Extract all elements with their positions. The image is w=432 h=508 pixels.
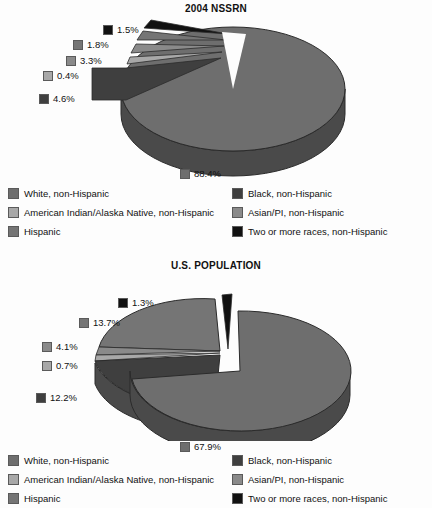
pie-callout: 67.9% bbox=[180, 442, 221, 452]
legend-item-asian-pi-nh[interactable]: Asian/PI, non-Hispanic bbox=[232, 207, 432, 218]
legend-swatch-white-nh bbox=[8, 455, 19, 466]
callout-label: 1.8% bbox=[87, 40, 109, 50]
legend-swatch-hispanic bbox=[8, 226, 19, 237]
legend-item-two-or-more-nh[interactable]: Two or more races, non-Hispanic bbox=[232, 226, 432, 237]
callout-label: 1.5% bbox=[117, 25, 139, 35]
callout-swatch bbox=[180, 442, 190, 452]
legend-item-two-or-more-nh[interactable]: Two or more races, non-Hispanic bbox=[232, 493, 432, 504]
callout-label: 12.2% bbox=[50, 393, 77, 403]
pie-callout: 3.3% bbox=[66, 56, 102, 66]
legend-item-white-nh[interactable]: White, non-Hispanic bbox=[0, 455, 232, 466]
callout-swatch bbox=[79, 318, 89, 328]
callout-swatch bbox=[42, 361, 52, 371]
pie-callout: 0.7% bbox=[42, 361, 78, 371]
callout-swatch bbox=[73, 40, 83, 50]
pie-callout: 12.2% bbox=[36, 393, 77, 403]
legend-swatch-hispanic bbox=[8, 493, 19, 504]
legend-label: Black, non-Hispanic bbox=[248, 189, 332, 199]
legend-row: Hispanic Two or more races, non-Hispanic bbox=[0, 493, 432, 508]
legend-row: Hispanic Two or more races, non-Hispanic bbox=[0, 226, 432, 245]
legend-swatch-black-nh bbox=[232, 455, 243, 466]
legend-swatch-aian-nh bbox=[8, 207, 19, 218]
legend-label: White, non-Hispanic bbox=[24, 189, 109, 199]
pie-callout: 1.8% bbox=[73, 40, 109, 50]
legend-swatch-two-or-more-nh bbox=[232, 226, 243, 237]
callout-swatch bbox=[66, 56, 76, 66]
legend-swatch-asian-pi-nh bbox=[232, 207, 243, 218]
legend-label: Two or more races, non-Hispanic bbox=[248, 227, 387, 237]
callout-label: 1.3% bbox=[132, 298, 154, 308]
legend-label: White, non-Hispanic bbox=[24, 456, 109, 466]
figure-us-population: U.S. POPULATION bbox=[0, 250, 432, 499]
legend-item-aian-nh[interactable]: American Indian/Alaska Native, non-Hispa… bbox=[0, 474, 232, 485]
pie-slice-two-or-more-nh bbox=[222, 294, 232, 349]
legend-label: Two or more races, non-Hispanic bbox=[248, 494, 387, 504]
legend-label: Hispanic bbox=[24, 227, 60, 237]
legend-row: White, non-Hispanic Black, non-Hispanic bbox=[0, 188, 432, 207]
pie-callout: 1.3% bbox=[118, 298, 154, 308]
chart-title-nssrn: 2004 NSSRN bbox=[0, 0, 432, 14]
legend-swatch-black-nh bbox=[232, 188, 243, 199]
callout-label: 4.1% bbox=[56, 342, 78, 352]
legend-label: Asian/PI, non-Hispanic bbox=[248, 208, 344, 218]
callout-swatch bbox=[42, 342, 52, 352]
callout-label: 13.7% bbox=[93, 318, 120, 328]
legend-nssrn: White, non-Hispanic Black, non-Hispanic … bbox=[0, 186, 432, 245]
legend-item-black-nh[interactable]: Black, non-Hispanic bbox=[232, 188, 432, 199]
legend-swatch-white-nh bbox=[8, 188, 19, 199]
chart-title-us-population: U.S. POPULATION bbox=[0, 250, 432, 271]
legend-label: Asian/PI, non-Hispanic bbox=[248, 475, 344, 485]
legend-row: White, non-Hispanic Black, non-Hispanic bbox=[0, 455, 432, 474]
callout-label: 0.7% bbox=[56, 361, 78, 371]
pie-svg-us-population bbox=[0, 271, 432, 441]
legend-swatch-asian-pi-nh bbox=[232, 474, 243, 485]
legend-item-white-nh[interactable]: White, non-Hispanic bbox=[0, 188, 232, 199]
legend-item-aian-nh[interactable]: American Indian/Alaska Native, non-Hispa… bbox=[0, 207, 232, 218]
callout-swatch bbox=[118, 298, 128, 308]
callout-label: 67.9% bbox=[194, 442, 221, 452]
callout-swatch bbox=[36, 393, 46, 403]
callout-swatch bbox=[39, 94, 49, 104]
legend-item-hispanic[interactable]: Hispanic bbox=[0, 226, 232, 237]
pie-callout: 0.4% bbox=[43, 71, 79, 81]
legend-swatch-two-or-more-nh bbox=[232, 493, 243, 504]
callout-swatch bbox=[43, 71, 53, 81]
pie-callout: 1.5% bbox=[103, 25, 139, 35]
legend-label: American Indian/Alaska Native, non-Hispa… bbox=[24, 208, 214, 218]
pie-chart-us-population bbox=[0, 271, 432, 441]
legend-row: American Indian/Alaska Native, non-Hispa… bbox=[0, 474, 432, 493]
legend-label: Hispanic bbox=[24, 494, 60, 504]
legend-item-black-nh[interactable]: Black, non-Hispanic bbox=[232, 455, 432, 466]
legend-label: American Indian/Alaska Native, non-Hispa… bbox=[24, 475, 214, 485]
figure-nssrn: 2004 NSSRN 1.5% 1.8% bbox=[0, 0, 432, 250]
callout-swatch bbox=[103, 25, 113, 35]
legend-item-hispanic[interactable]: Hispanic bbox=[0, 493, 232, 504]
callout-label: 88.4% bbox=[194, 169, 221, 179]
legend-label: Black, non-Hispanic bbox=[248, 456, 332, 466]
callout-label: 4.6% bbox=[53, 94, 75, 104]
pie-stage-us-population: 1.3% 13.7% 4.1% 0.7% 12.2% 67.9% bbox=[0, 271, 432, 441]
legend-swatch-aian-nh bbox=[8, 474, 19, 485]
legend-row: American Indian/Alaska Native, non-Hispa… bbox=[0, 207, 432, 226]
pie-callout: 4.6% bbox=[39, 94, 75, 104]
callout-label: 3.3% bbox=[80, 56, 102, 66]
pie-callout: 13.7% bbox=[79, 318, 120, 328]
pie-stage-nssrn: 1.5% 1.8% 3.3% 0.4% 4.6% 88.4% bbox=[0, 14, 432, 186]
legend-item-asian-pi-nh[interactable]: Asian/PI, non-Hispanic bbox=[232, 474, 432, 485]
callout-label: 0.4% bbox=[57, 71, 79, 81]
pie-callout: 4.1% bbox=[42, 342, 78, 352]
pie-slice-two-or-more-nh bbox=[144, 20, 228, 34]
legend-us-population: White, non-Hispanic Black, non-Hispanic … bbox=[0, 453, 432, 508]
pie-callout: 88.4% bbox=[180, 169, 221, 179]
callout-swatch bbox=[180, 169, 190, 179]
